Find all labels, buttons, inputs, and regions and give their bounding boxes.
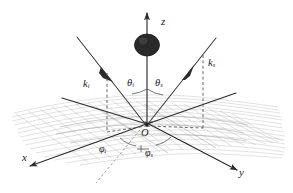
y-axis-label: y [239,167,244,178]
theta-i-label: θi [127,78,134,89]
incident-wave-vector-label: ki [83,79,89,90]
phi-i-label: φi [99,144,106,155]
scatterer-sphere [135,34,160,56]
theta-s-subscript: s [160,81,163,88]
diagram-canvas [0,0,293,193]
theta-i-arc [132,89,147,94]
k-i-subscript: i [88,82,90,89]
phi-i-subscript: i [105,147,107,154]
scattered-wave-vector-label: ks [208,58,215,69]
scattering-geometry-figure: z x y O ki ks θi θs φi φs [0,0,293,193]
y-axis-back [62,98,147,124]
incident-ray-arrow [99,67,113,82]
phi-s-subscript: s [151,151,153,158]
theta-s-arc [147,89,163,95]
z-axis-label: z [161,16,165,27]
x-axis-label: x [22,152,27,163]
theta-i-subscript: i [132,81,134,88]
theta-s-label: θs [155,78,163,89]
y-axis [145,122,237,170]
k-s-subscript: s [213,61,216,68]
phi-s-label: φs [145,148,153,159]
scatterer-sphere-highlight [139,38,147,45]
origin-label: O [141,128,149,139]
x-axis [30,122,152,166]
